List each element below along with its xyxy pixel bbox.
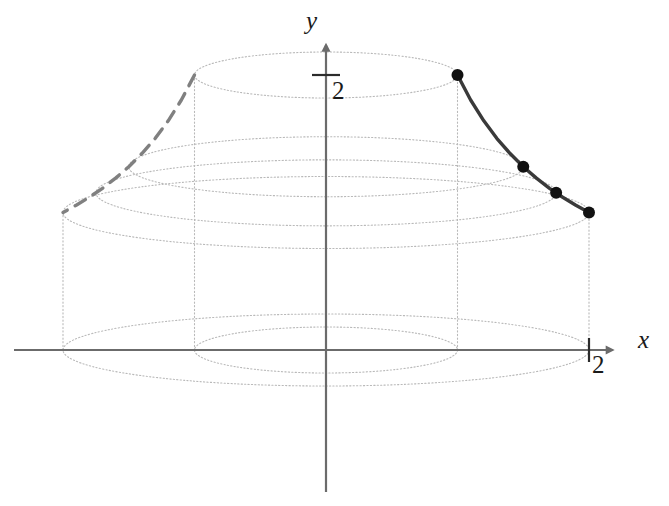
figure-canvas [0,0,669,506]
sample-point-2 [550,187,562,199]
x-axis-label: x [638,327,649,352]
solid-of-revolution-figure: y x 2 2 [0,0,669,506]
x-axis-arrowhead [606,345,615,354]
y-axis-label: y [306,8,317,33]
y-axis-tick-label: 2 [332,78,345,103]
curve-mirrored-curve [63,75,195,213]
sample-point-0 [452,69,464,81]
axes-group [14,43,615,492]
sample-point-3 [583,207,595,219]
y-axis-arrowhead [321,43,330,52]
sample-point-1 [517,161,529,173]
sample-points-group [452,69,596,219]
x-axis-tick-label: 2 [592,352,605,377]
curve-generating-curve [458,75,590,213]
